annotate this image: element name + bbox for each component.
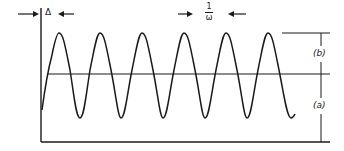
delta-label: Δ	[45, 7, 51, 17]
period-arrow-right-icon	[187, 11, 193, 17]
label-a: (a)	[313, 100, 326, 110]
label-b: (b)	[313, 48, 326, 58]
delta-arrow-right-icon	[33, 11, 39, 17]
period-arrow-left-icon	[228, 11, 234, 17]
delta-arrow-left-icon	[58, 11, 64, 17]
period-denominator: ω	[206, 14, 213, 22]
period-label: 1 ω	[205, 3, 213, 22]
period-numerator: 1	[206, 3, 211, 11]
sine-wave	[42, 33, 295, 118]
waveform-diagram	[0, 0, 344, 151]
